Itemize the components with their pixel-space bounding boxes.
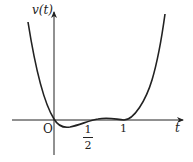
- tick-half-denominator: 2: [85, 139, 92, 152]
- x-axis-label: t: [175, 122, 180, 134]
- tick-label-one: 1: [120, 123, 127, 134]
- tick-half-numerator: 1: [85, 123, 92, 136]
- function-graph: v(t) t O 1 2 1: [0, 0, 193, 162]
- graph-canvas: [0, 0, 193, 162]
- tick-label-one-half: 1 2: [83, 124, 93, 151]
- function-curve: [28, 14, 165, 127]
- y-axis-label: v(t): [32, 4, 53, 16]
- origin-label: O: [43, 123, 53, 135]
